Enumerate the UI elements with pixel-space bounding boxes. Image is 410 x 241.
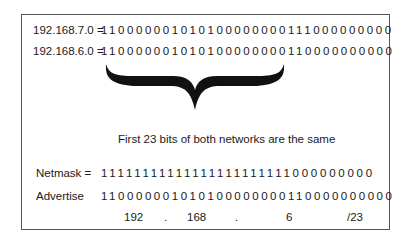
octet-1: 192 [124, 211, 143, 223]
advertise-label: Advertise [36, 189, 84, 203]
caption: First 23 bits of both networks are the s… [118, 133, 335, 145]
row2-label: 192.168.6.0 = [33, 44, 104, 58]
octet-2: 168 [187, 211, 206, 223]
advertise-bits: 110000001010100000000110000000000 [101, 189, 395, 203]
curly-brace-icon [103, 62, 287, 114]
prefix-length: /23 [347, 211, 363, 223]
dot-1: . [164, 211, 167, 223]
netmask-bits: 11111111111111111111111000000000 [101, 166, 375, 180]
dot-2: . [235, 211, 238, 223]
netmask-label: Netmask = [36, 166, 91, 180]
row1-bits: 110000001010100000000111000000000 [101, 23, 394, 37]
octet-3: 6 [286, 211, 292, 223]
row1-label: 192.168.7.0 = [33, 23, 104, 37]
row2-bits: 110000001010100000000110000000000 [101, 44, 395, 58]
